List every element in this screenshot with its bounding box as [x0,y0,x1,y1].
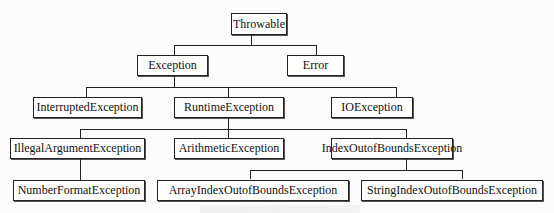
connector [86,87,87,97]
connector [174,45,317,46]
node-number-format-exception: NumberFormatException [13,180,145,201]
connector [174,45,175,55]
connector [406,129,407,138]
connector [396,87,397,97]
connector [406,159,407,170]
exception-hierarchy-diagram: Throwable Exception Error InterruptedExc… [0,0,554,213]
connector [250,170,463,171]
connector [80,129,81,138]
connector [80,159,81,180]
connector [228,118,229,129]
node-arithmetic-exception: ArithmeticException [174,138,284,159]
node-interrupted-exception: InterruptedException [33,97,142,118]
connector [316,45,317,55]
connector [462,170,463,179]
node-string-index-out-of-bounds-exception: StringIndexOutofBoundsException [361,180,543,201]
node-error: Error [287,55,344,76]
connector [228,129,229,138]
node-array-index-out-of-bounds-exception: ArrayIndexOutofBoundsException [157,180,349,201]
node-illegal-argument-exception: IllegalArgumentException [10,138,145,159]
connector [174,76,175,87]
node-index-out-of-bounds-exception: IndexOutofBoundsException [331,138,453,159]
figure-caption [200,205,360,213]
connector [80,129,407,130]
connector [250,170,251,179]
node-io-exception: IOException [331,97,413,118]
connector [86,87,397,88]
node-throwable: Throwable [231,13,287,35]
connector [228,87,229,97]
node-runtime-exception: RuntimeException [174,97,284,118]
node-exception: Exception [137,55,208,76]
connector [251,35,252,45]
